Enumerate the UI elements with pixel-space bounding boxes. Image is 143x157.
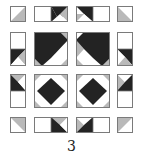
tile-corner-top-left [10,6,26,22]
tile-center-bottom-right [76,74,110,108]
tile-center-top-left [34,32,68,66]
quilt-pattern-diagram [0,0,143,157]
tile-edge-right-top [117,32,133,66]
tile-corner-top-right [117,6,133,22]
figure-caption: 3 [0,138,143,154]
tile-edge-top-left [34,6,68,22]
tile-center-bottom-left [34,74,68,108]
tile-edge-left-bottom [10,74,26,108]
tile-corner-bottom-left [10,117,26,133]
tile-edge-right-bottom [117,74,133,108]
tile-edge-bottom-left [34,117,68,133]
tile-edge-top-right [76,6,110,22]
tile-edge-bottom-right [76,117,110,133]
tile-edge-left-top [10,32,26,66]
tile-center-top-right [76,32,110,66]
tile-corner-bottom-right [117,117,133,133]
